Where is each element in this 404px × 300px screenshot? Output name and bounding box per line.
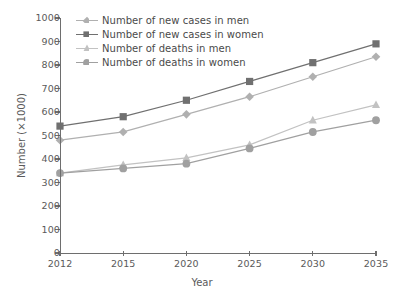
- data-point: [372, 52, 381, 61]
- x-tick: [59, 251, 60, 256]
- x-tick: [249, 251, 250, 256]
- data-point: [183, 97, 190, 104]
- data-point: [119, 128, 128, 137]
- y-axis-title: Number (×1000): [16, 71, 27, 201]
- data-point: [245, 92, 254, 101]
- legend-item-label: Number of deaths in men: [102, 43, 231, 54]
- legend-marker-diamond-icon: [76, 15, 98, 27]
- y-tick-label: 500: [42, 131, 60, 140]
- y-tick-label: 100: [42, 225, 60, 234]
- data-point: [119, 165, 127, 173]
- x-axis-title: Year: [0, 277, 404, 288]
- legend-item-label: Number of new cases in women: [102, 29, 264, 40]
- series-line: [60, 57, 376, 140]
- data-point: [309, 72, 318, 81]
- legend-item[interactable]: Number of deaths in women: [76, 56, 264, 69]
- data-point: [372, 40, 379, 47]
- legend-item[interactable]: Number of new cases in men: [76, 14, 264, 27]
- y-tick-label: 1000: [35, 13, 60, 22]
- data-point: [372, 101, 380, 109]
- data-point: [182, 110, 191, 119]
- x-axis-line: [60, 253, 376, 254]
- data-point: [246, 78, 253, 85]
- x-tick-label: 2015: [100, 258, 146, 269]
- data-point: [372, 116, 380, 124]
- line-chart: 01002003004005006007008009001000 2012201…: [0, 0, 404, 300]
- legend-item[interactable]: Number of deaths in men: [76, 42, 264, 55]
- legend-marker-circle-icon: [76, 57, 98, 69]
- legend-item-label: Number of deaths in women: [102, 57, 246, 68]
- series-line: [60, 105, 376, 173]
- x-tick-label: 2025: [227, 258, 273, 269]
- series-line: [60, 120, 376, 173]
- y-tick-label: 400: [42, 154, 60, 163]
- y-tick-label: 900: [42, 37, 60, 46]
- legend-item[interactable]: Number of new cases in women: [76, 28, 264, 41]
- y-axis-line: [60, 18, 61, 254]
- y-tick-label: 600: [42, 107, 60, 116]
- x-tick-label: 2020: [163, 258, 209, 269]
- data-point: [120, 113, 127, 120]
- x-tick-label: 2012: [37, 258, 83, 269]
- x-tick-label: 2035: [353, 258, 399, 269]
- legend-item-label: Number of new cases in men: [102, 15, 249, 26]
- data-point: [183, 160, 191, 168]
- x-tick: [312, 251, 313, 256]
- data-point: [309, 128, 317, 136]
- x-tick-label: 2030: [290, 258, 336, 269]
- y-tick-label: 200: [42, 201, 60, 210]
- data-point: [246, 145, 254, 153]
- x-tick: [375, 251, 376, 256]
- x-tick: [186, 251, 187, 256]
- x-tick: [123, 251, 124, 256]
- y-tick-label: 800: [42, 60, 60, 69]
- legend-marker-triangle-icon: [76, 43, 98, 55]
- y-tick-label: 300: [42, 178, 60, 187]
- chart-legend: Number of new cases in men Number of new…: [76, 14, 264, 69]
- legend-marker-square-icon: [76, 29, 98, 41]
- data-point: [309, 59, 316, 66]
- y-tick-label: 700: [42, 84, 60, 93]
